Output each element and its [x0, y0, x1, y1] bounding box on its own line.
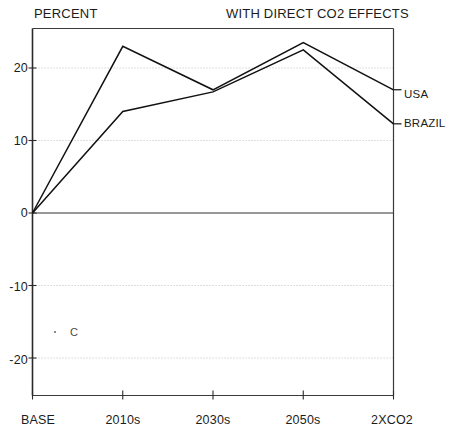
tick-marks-group: [29, 68, 394, 400]
data-series-group: [33, 43, 402, 213]
axes-group: [33, 29, 394, 396]
plot-area: [0, 0, 457, 445]
series-line-brazil: [33, 50, 394, 213]
chart-container: PERCENT WITH DIRECT CO2 EFFECTS 20 10 0 …: [0, 0, 457, 445]
